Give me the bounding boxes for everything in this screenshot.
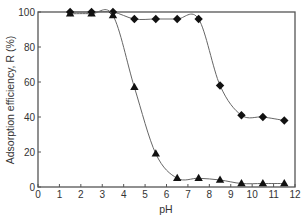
triangle-marker <box>280 179 288 186</box>
y-tick-label: 60 <box>24 77 36 88</box>
x-tick-label: 10 <box>247 189 259 200</box>
chart: 020406080100 0123456789101112 pH Adsorpt… <box>0 0 307 219</box>
triangle-marker <box>130 83 138 90</box>
diamond-marker <box>216 81 224 89</box>
x-tick-label: 11 <box>268 189 279 200</box>
triangle-marker <box>173 174 181 181</box>
x-tick-label: 0 <box>35 189 41 200</box>
diamond-series <box>66 8 289 125</box>
triangle-marker <box>237 179 245 186</box>
x-tick-label: 5 <box>142 189 148 200</box>
x-tick-label: 9 <box>228 189 234 200</box>
y-axis-title: Adsorption efficiency, R (%) <box>4 36 16 165</box>
triangle-series <box>66 9 289 186</box>
x-tick-label: 12 <box>289 189 301 200</box>
series-layer <box>66 8 289 187</box>
y-tick-label: 80 <box>24 42 36 53</box>
diamond-marker <box>152 15 160 23</box>
x-tick-label: 4 <box>121 189 127 200</box>
diamond-marker <box>280 116 288 124</box>
series-line <box>70 10 284 184</box>
y-tick-label: 40 <box>24 112 36 123</box>
triangle-marker <box>152 149 160 156</box>
x-axis-title: pH <box>159 203 172 215</box>
y-tick-label: 20 <box>24 147 36 158</box>
x-tick-label: 6 <box>164 189 170 200</box>
y-tick-label: 100 <box>18 7 35 18</box>
diamond-marker <box>130 15 138 23</box>
triangle-marker <box>194 174 202 181</box>
diamond-marker <box>259 113 267 121</box>
diamond-marker <box>173 15 181 23</box>
x-tick-label: 2 <box>78 189 84 200</box>
x-tick-label: 8 <box>207 189 213 200</box>
x-tick-label: 1 <box>57 189 63 200</box>
triangle-marker <box>259 179 267 186</box>
plot-border <box>38 12 295 187</box>
x-tick-label: 7 <box>185 189 191 200</box>
plot-frame <box>38 12 295 187</box>
series-line <box>70 11 284 120</box>
x-tick-label: 3 <box>99 189 105 200</box>
triangle-marker <box>216 176 224 183</box>
